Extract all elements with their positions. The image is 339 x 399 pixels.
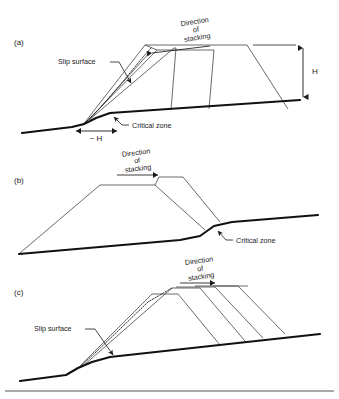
panel-c-slip-surface-leader bbox=[85, 329, 113, 355]
figure-container: (a) Direction of stacking Slip surface C… bbox=[0, 0, 339, 399]
panel-a-direction-line3: stacking bbox=[183, 31, 210, 44]
panel-a-slip-surface-label: Slip surface bbox=[58, 57, 96, 66]
panel-b-ground-line bbox=[19, 215, 318, 254]
panel-c-stack-lifts bbox=[78, 286, 285, 368]
panel-c-ground-line bbox=[20, 334, 320, 381]
panel-b-critical-zone-label: Critical zone bbox=[236, 236, 276, 245]
panel-a-critical-zone-leader bbox=[114, 117, 129, 125]
panel-a-direction-label: Direction of stacking bbox=[180, 15, 212, 44]
panel-c-slip-surface-label: Slip surface bbox=[34, 324, 72, 333]
panel-a-direction-arrow bbox=[152, 46, 210, 53]
panel-b-lift-1 bbox=[20, 185, 205, 253]
panel-a-critical-zone-label: Critical zone bbox=[132, 121, 172, 130]
panel-a-height-label: H bbox=[312, 67, 318, 76]
stacking-diagram-svg: (a) Direction of stacking Slip surface C… bbox=[0, 0, 339, 399]
panel-c-direction-line3: stacking bbox=[187, 270, 214, 283]
panel-b-direction-line3: stacking bbox=[124, 162, 151, 174]
panel-a-label: (a) bbox=[14, 38, 24, 47]
panel-c-direction-label: Direction of stacking bbox=[184, 254, 216, 283]
panel-b-stack-lifts bbox=[20, 177, 220, 253]
panel-c: (c) Direction of stacking Slip surface bbox=[14, 254, 320, 381]
panel-a-base-width-label: ~ H bbox=[90, 134, 103, 143]
panel-c-lift-1 bbox=[78, 294, 220, 368]
panel-c-label: (c) bbox=[14, 288, 24, 297]
panel-b-direction-label: Direction of stacking bbox=[121, 146, 152, 174]
panel-b-critical-zone-leader bbox=[218, 231, 233, 240]
panel-b-label: (b) bbox=[14, 176, 24, 185]
panel-c-lift-4 bbox=[195, 286, 285, 334]
panel-c-lift-2 bbox=[83, 288, 245, 366]
panel-b-lift-2 bbox=[155, 177, 220, 222]
panel-a: (a) Direction of stacking Slip surface C… bbox=[14, 15, 318, 143]
panel-b: (b) Direction of stacking Critical zone bbox=[14, 146, 318, 254]
panel-c-lift-3 bbox=[176, 287, 263, 338]
panel-a-crest-link-a bbox=[145, 45, 157, 50]
